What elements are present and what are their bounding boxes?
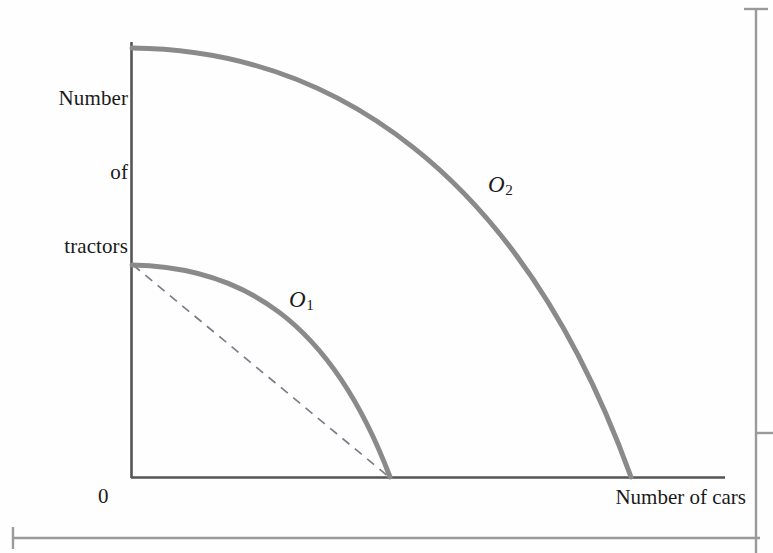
curve-label-o2-letter: O <box>488 172 505 197</box>
curve-label-o2-subscript: 2 <box>505 181 513 198</box>
y-axis-label: Number of tractors <box>0 36 128 308</box>
x-axis-label: Number of cars <box>560 485 746 510</box>
y-axis-label-line3: tractors <box>0 234 128 259</box>
y-axis-label-line2: of <box>0 160 128 185</box>
origin-label: 0 <box>98 484 109 509</box>
curve-o2-outer-frontier <box>132 48 631 477</box>
curve-label-o2: O2 <box>488 172 513 199</box>
curve-label-o1-letter: O <box>289 287 306 312</box>
curve-label-o1-subscript: 1 <box>306 296 314 313</box>
curve-label-o1: O1 <box>289 287 314 314</box>
chart-axes <box>131 42 725 478</box>
ppf-figure: Number of tractors Number of cars 0 O2 O… <box>0 0 773 553</box>
dashed-chord-line <box>133 265 389 477</box>
y-axis-label-line1: Number <box>0 86 128 111</box>
